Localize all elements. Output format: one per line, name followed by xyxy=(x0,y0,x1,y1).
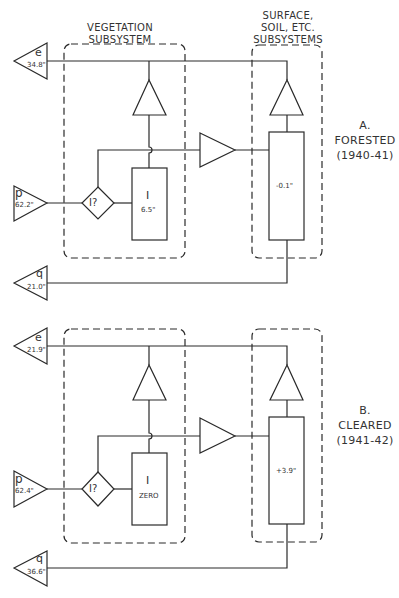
evap-symbol-b: e xyxy=(35,332,42,343)
decision-diamond-a xyxy=(82,187,114,219)
vegetation-evap-triangle-a xyxy=(133,80,166,115)
throughfall-triangle-b xyxy=(200,418,235,453)
evap-value-b: 21.9" xyxy=(27,346,46,354)
title-line: VEGETATION xyxy=(87,22,153,34)
precip-symbol-a: p xyxy=(15,188,23,199)
panel-a-lines xyxy=(14,43,322,300)
storage-change-b: +3.9" xyxy=(276,467,296,475)
title-line: SUBSYSTEM xyxy=(87,34,153,46)
panel-years: (1940-41) xyxy=(330,148,399,163)
decision-label-b: I? xyxy=(89,483,97,494)
interception-box-b xyxy=(132,453,167,525)
decision-diamond-b xyxy=(82,472,114,506)
runoff-symbol-a: q xyxy=(36,268,43,279)
panel-letter: A. xyxy=(330,118,399,133)
interception-box-a xyxy=(132,168,167,240)
interception-value-a: 6.5" xyxy=(141,206,155,214)
panel-name: CLEARED xyxy=(330,418,399,433)
vegetation-evap-triangle-b xyxy=(133,365,166,400)
storage-change-a: -0.1" xyxy=(276,182,293,190)
title-line: SURFACE, xyxy=(252,10,324,22)
panel-b-lines xyxy=(14,328,322,586)
surface-evap-triangle-a xyxy=(270,80,303,115)
precip-value-a: 62.2" xyxy=(15,201,34,209)
decision-label-a: I? xyxy=(89,197,97,208)
title-line: SOIL, ETC. xyxy=(252,22,324,34)
evap-value-a: 34.8" xyxy=(27,61,46,69)
runoff-value-a: 21.0" xyxy=(27,283,46,291)
panel-a-label: A. FORESTED (1940-41) xyxy=(330,118,399,163)
runoff-symbol-b: q xyxy=(36,553,43,564)
evap-symbol-a: e xyxy=(35,47,42,58)
surface-subsystems-title: SURFACE, SOIL, ETC. SUBSYSTEMS xyxy=(252,10,324,46)
panel-name: FORESTED xyxy=(330,133,399,148)
panel-b-label: B. CLEARED (1941-42) xyxy=(330,403,399,448)
diagram-canvas xyxy=(0,0,399,598)
interception-value-b: ZERO xyxy=(139,492,159,500)
precip-symbol-b: p xyxy=(15,474,23,485)
vegetation-subsystem-title: VEGETATION SUBSYSTEM xyxy=(87,22,153,46)
interception-symbol-a: I xyxy=(146,189,149,202)
surface-evap-triangle-b xyxy=(270,365,303,400)
interception-symbol-b: I xyxy=(146,474,149,487)
precip-value-b: 62.4" xyxy=(15,487,34,495)
runoff-value-b: 36.6" xyxy=(27,568,46,576)
panel-years: (1941-42) xyxy=(330,433,399,448)
evaporation-line-a xyxy=(47,61,287,80)
throughfall-triangle-a xyxy=(200,133,235,167)
panel-letter: B. xyxy=(330,403,399,418)
title-line: SUBSYSTEMS xyxy=(252,34,324,46)
